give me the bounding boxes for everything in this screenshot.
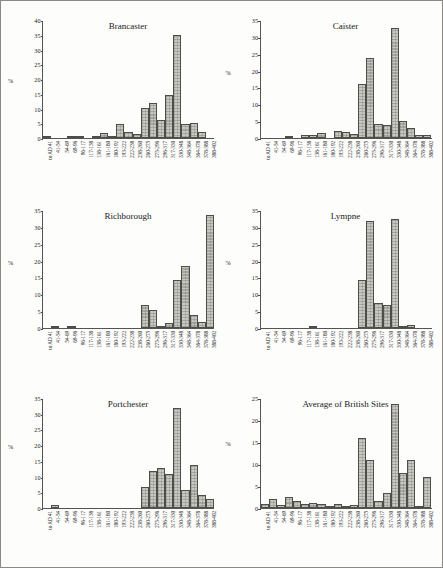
bar-slot (51, 21, 59, 138)
bar-slot (149, 399, 157, 508)
bar-series-richborough (43, 211, 214, 328)
x-tick-slot: 161-180 (317, 510, 325, 558)
chart-panel-portchester: Portchester05101520253035%to AD 4141-545… (4, 385, 222, 565)
bar-slot (198, 399, 206, 508)
x-axis-labels-portchester: to AD 4141-5454-6969-9696-117117-138138-… (42, 510, 214, 558)
x-tick-slot: 348-364 (181, 510, 189, 558)
bar-slot (317, 21, 325, 138)
bar (181, 124, 189, 138)
x-tick-label: 388-402 (429, 331, 434, 348)
bar-slot (84, 21, 92, 138)
bar (190, 465, 198, 508)
bar (76, 136, 84, 138)
bar-slot (141, 399, 149, 508)
bar-slot (350, 399, 358, 508)
x-tick-slot: 364-378 (407, 330, 415, 380)
x-tick-slot: 69-96 (67, 330, 75, 380)
x-tick-slot: 41-54 (50, 140, 58, 190)
x-tick-slot: 260-275 (358, 140, 366, 190)
bar-series-portchester (43, 399, 214, 508)
x-tick-slot: 193-222 (116, 330, 124, 380)
x-tick-slot: 388-402 (206, 140, 214, 190)
chart-panel-average-of-british-sites: Average of British Sites0510152025%to AD… (222, 385, 440, 565)
bar (374, 124, 382, 138)
bar-slot (206, 21, 214, 138)
x-tick-slot: 296-317 (374, 510, 382, 558)
bar-slot (407, 21, 415, 138)
bar-slot (366, 21, 374, 138)
x-tick-slot: 317-330 (382, 510, 390, 558)
x-tick-slot: to AD 41 (260, 140, 268, 190)
x-tick-slot: 161-180 (99, 330, 107, 380)
x-tick-slot: 222-238 (341, 140, 349, 190)
bar-slot (374, 21, 382, 138)
bar-slot (76, 21, 84, 138)
y-axis-label-portchester: % (8, 443, 13, 450)
bar (173, 280, 181, 328)
x-tick-slot: 348-364 (181, 140, 189, 190)
bar-slot (423, 399, 431, 508)
bar-slot (206, 211, 214, 328)
x-tick-slot: 96-117 (292, 330, 300, 380)
x-tick-slot: 54-69 (276, 330, 284, 380)
bar-slot (51, 399, 59, 508)
x-tick-slot: 138-161 (309, 140, 317, 190)
x-tick-slot: 69-96 (67, 510, 75, 558)
x-tick-slot: 222-238 (124, 510, 132, 558)
bar-slot (67, 21, 75, 138)
x-tick-slot: 117-138 (83, 140, 91, 190)
bar-slot (173, 211, 181, 328)
bar-slot (293, 211, 301, 328)
x-tick-slot: 238-260 (132, 510, 140, 558)
x-tick-slot: 317-330 (165, 330, 173, 380)
bar (190, 315, 198, 328)
x-tick-slot: 54-69 (58, 140, 66, 190)
bar (67, 326, 75, 328)
bar (51, 326, 59, 328)
x-tick-slot: to AD 41 (260, 330, 268, 380)
bar-slot (415, 211, 423, 328)
y-axis-label-brancaster: % (8, 77, 13, 84)
x-tick-slot: 180-192 (108, 330, 116, 380)
x-tick-slot: 296-317 (157, 510, 165, 558)
x-tick-slot: 330-348 (173, 510, 181, 558)
bar (399, 121, 407, 138)
x-tick-slot: 317-330 (165, 510, 173, 558)
bar-slot (326, 211, 334, 328)
bar-slot (269, 399, 277, 508)
x-tick-slot: 238-260 (350, 140, 358, 190)
bar-slot (415, 21, 423, 138)
bar-slot (415, 399, 423, 508)
x-axis-labels-richborough: to AD 4141-5454-6969-9696-117117-138138-… (42, 330, 214, 380)
bar-slot (133, 21, 141, 138)
x-tick-slot: 296-317 (157, 140, 165, 190)
x-tick-slot: 138-161 (91, 330, 99, 380)
x-tick-slot: 378-388 (198, 510, 206, 558)
bar-slot (317, 211, 325, 328)
bar (100, 133, 108, 138)
x-tick-slot: 238-260 (132, 140, 140, 190)
bar (157, 326, 165, 328)
bar-slot (84, 211, 92, 328)
bar-slot (334, 399, 342, 508)
bar-slot (84, 399, 92, 508)
bar (51, 505, 59, 508)
bar (67, 136, 75, 138)
bar (206, 215, 214, 328)
bar-slot (374, 211, 382, 328)
bar-series-brancaster (43, 21, 214, 138)
bar (317, 133, 325, 138)
x-tick-slot: 193-222 (116, 510, 124, 558)
x-tick-slot: 317-330 (382, 140, 390, 190)
x-tick-slot: 54-69 (58, 330, 66, 380)
bar-slot (334, 21, 342, 138)
x-tick-slot: 364-378 (189, 330, 197, 380)
bar-slot (399, 21, 407, 138)
bar (326, 506, 334, 508)
bar-slot (317, 399, 325, 508)
bar (293, 501, 301, 508)
chart-panel-lympne: Lympne05101520253035%to AD 4141-5454-696… (222, 195, 440, 385)
bar (198, 495, 206, 508)
chart-grid: Brancaster0510152025303540%to AD 4141-54… (4, 5, 439, 565)
bar-slot (124, 21, 132, 138)
